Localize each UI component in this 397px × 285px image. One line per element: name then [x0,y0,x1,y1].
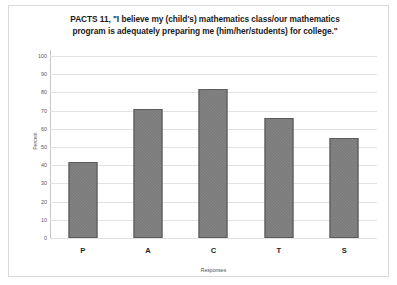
x-tick-label-a: A [115,246,180,255]
bar-s[interactable] [330,138,359,238]
bar-p[interactable] [68,162,97,238]
y-tick-label: 100 [38,53,47,59]
y-tick-label: 50 [41,144,47,150]
y-tick-label: 60 [41,126,47,132]
x-tick-label-s: S [312,246,377,255]
x-tick-label-p: P [50,246,115,255]
y-tick-label: 80 [41,89,47,95]
x-axis-title: Responses [50,267,377,273]
bar-a[interactable] [134,109,163,238]
x-tick-label-t: T [246,246,311,255]
gridline [50,238,377,239]
chart-title: PACTS 11, "I believe my (child's) mathem… [55,14,355,37]
plot-inner: 0102030405060708090100 [50,56,377,238]
y-tick-label: 0 [44,235,47,241]
plot-area: 0102030405060708090100 PACTS [50,50,377,238]
y-tick-label: 70 [41,108,47,114]
chart-figure: PACTS 11, "I believe my (child's) mathem… [8,5,389,277]
y-axis-title: Percent [32,132,38,150]
y-tick-label: 40 [41,162,47,168]
bar-slot [312,56,377,238]
bar-slot [115,56,180,238]
x-tick-label-c: C [181,246,246,255]
y-tick-label: 90 [41,71,47,77]
y-tick-label: 20 [41,199,47,205]
y-tick-label: 10 [41,217,47,223]
bar-slot [246,56,311,238]
bar-c[interactable] [199,89,228,238]
bar-t[interactable] [264,118,293,238]
bar-slot [181,56,246,238]
bar-slot [50,56,115,238]
y-tick-label: 30 [41,180,47,186]
